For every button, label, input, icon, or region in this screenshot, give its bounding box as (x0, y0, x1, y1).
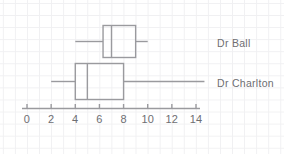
series-label-dr-ball: Dr Ball (217, 37, 251, 49)
x-tick-label-6: 6 (96, 113, 102, 125)
x-tick-label-8: 8 (120, 113, 126, 125)
x-tick-label-14: 14 (190, 113, 203, 125)
box-dr-ball (103, 26, 136, 58)
box-dr-charlton (75, 64, 123, 100)
series-label-dr-charlton: Dr Charlton (217, 77, 274, 89)
x-tick-label-10: 10 (141, 113, 154, 125)
boxplot-figure: Dr Ball Dr Charlton 02468101214 (0, 0, 284, 154)
x-tick-label-12: 12 (166, 113, 179, 125)
x-tick-label-0: 0 (24, 113, 30, 125)
x-tick-label-4: 4 (72, 113, 78, 125)
x-tick-label-2: 2 (48, 113, 54, 125)
